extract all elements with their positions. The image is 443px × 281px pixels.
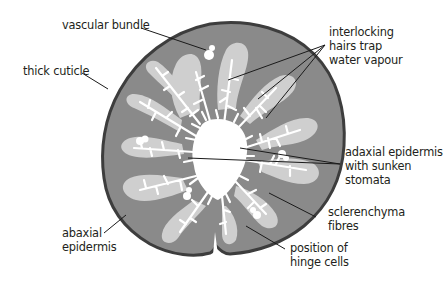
label-vascular-bundle: vascular bundle bbox=[62, 18, 150, 32]
label-sclerenchyma-fibres: sclerenchyma fibres bbox=[328, 205, 405, 233]
label-interlocking-hairs: interlocking hairs trap water vapour bbox=[329, 25, 403, 67]
label-hinge-cells: position of hinge cells bbox=[290, 241, 349, 269]
label-abaxial-epidermis: abaxial epidermis bbox=[62, 226, 117, 254]
label-adaxial-epidermis: adaxial epidermis with sunken stomata bbox=[345, 145, 443, 187]
label-thick-cuticle: thick cuticle bbox=[23, 64, 89, 78]
